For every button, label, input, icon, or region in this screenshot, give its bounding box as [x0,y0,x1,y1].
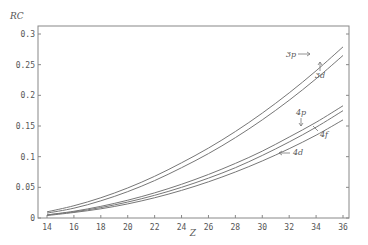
x-tick-label: 22 [150,223,160,232]
x-axis-title: Z [189,228,197,238]
y-tick-label: 0.2 [21,91,36,100]
label-4p: 4p [295,108,306,117]
x-tick-label: 18 [96,223,106,232]
y-tick-label: 0.1 [21,153,36,162]
x-tick-label: 36 [338,223,348,232]
x-tick-label: 34 [311,223,321,232]
y-tick-label: 0.3 [21,30,36,39]
y-tick-label: 0.15 [16,122,35,131]
x-tick-label: 30 [257,223,267,232]
x-tick-label: 26 [204,223,214,232]
label-3p: 3p [286,50,296,59]
x-tick-label: 20 [123,223,133,232]
label-4f: 4f [319,130,330,139]
y-axis-title: RC [9,11,24,21]
rc-vs-z-chart: 14161820222426283032343600.050.10.150.20… [0,0,368,245]
series-curves [47,47,343,216]
y-tick-label: 0.05 [16,183,35,192]
x-tick-label: 24 [177,223,187,232]
label-4d: 4d [292,148,303,157]
series-line-3d [47,55,343,213]
x-tick-label: 32 [284,223,294,232]
label-3d: 3d [315,71,325,80]
series-line-4f [47,111,343,215]
y-tick-label: 0.25 [16,61,35,70]
x-tick-label: 14 [42,223,52,232]
axis-ticks: 14161820222426283032343600.050.10.150.20… [16,30,349,232]
series-line-3p [47,47,343,212]
x-tick-label: 16 [69,223,79,232]
x-tick-label: 28 [231,223,241,232]
y-tick-label: 0 [30,214,35,223]
plot-frame [38,26,349,218]
